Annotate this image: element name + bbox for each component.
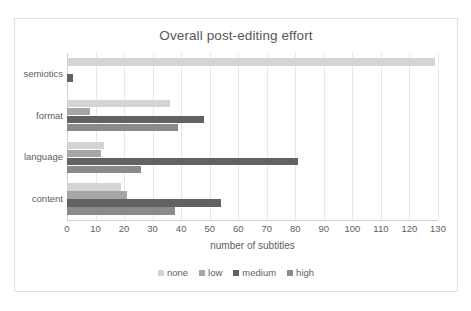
bar-language-high[interactable] (67, 166, 141, 173)
x-tick-label-90: 90 (319, 223, 330, 234)
bar-content-none[interactable] (67, 183, 121, 190)
x-tick-label-50: 50 (204, 223, 215, 234)
legend-label-low: low (208, 267, 222, 278)
bar-semiotics-medium[interactable] (67, 74, 73, 81)
legend-item-low[interactable]: low (199, 267, 222, 278)
category-label-language: language (24, 151, 63, 162)
bar-row (67, 142, 438, 149)
x-tick-label-0: 0 (64, 223, 69, 234)
chart-legend: nonelowmediumhigh (15, 267, 457, 278)
legend-item-medium[interactable]: medium (233, 267, 276, 278)
bar-content-medium[interactable] (67, 199, 221, 206)
x-tick-label-120: 120 (402, 223, 418, 234)
bar-group-content (67, 178, 438, 220)
x-tick-label-130: 130 (430, 223, 446, 234)
bar-row (67, 158, 438, 165)
category-label-semiotics: semiotics (23, 68, 63, 79)
bar-row (67, 183, 438, 190)
chart-title: Overall post-editing effort (15, 28, 457, 43)
value-axis-title: number of subtitles (67, 240, 438, 251)
bar-group-format (67, 95, 438, 137)
legend-label-medium: medium (242, 267, 276, 278)
legend-label-none: none (167, 267, 188, 278)
gridline-130 (438, 53, 439, 220)
bar-content-low[interactable] (67, 191, 127, 198)
bar-row (67, 199, 438, 206)
bar-row (67, 74, 438, 81)
bar-row (67, 108, 438, 115)
bar-row (67, 66, 438, 73)
bar-format-low[interactable] (67, 108, 90, 115)
x-tick-label-60: 60 (233, 223, 244, 234)
x-tick-label-100: 100 (344, 223, 360, 234)
legend-swatch-none (158, 270, 164, 276)
bar-language-none[interactable] (67, 142, 104, 149)
x-tick-label-20: 20 (119, 223, 130, 234)
chart-frame: Overall post-editing effort semioticsfor… (14, 18, 458, 292)
legend-label-high: high (296, 267, 314, 278)
x-tick-label-80: 80 (290, 223, 301, 234)
bar-format-none[interactable] (67, 100, 170, 107)
x-tick-label-40: 40 (176, 223, 187, 234)
category-label-format: format (36, 110, 63, 121)
bar-content-high[interactable] (67, 207, 175, 214)
legend-swatch-medium (233, 270, 239, 276)
bar-semiotics-none[interactable] (67, 58, 435, 65)
plot-area (67, 53, 438, 220)
legend-item-none[interactable]: none (158, 267, 188, 278)
x-tick-label-70: 70 (261, 223, 272, 234)
bar-row (67, 82, 438, 89)
value-axis-tick-labels: 0102030405060708090100110120130 (67, 223, 438, 237)
legend-swatch-high (287, 270, 293, 276)
category-axis-labels: semioticsformatlanguagecontent (15, 53, 63, 220)
bar-row (67, 207, 438, 214)
category-label-content: content (32, 193, 63, 204)
bar-row (67, 191, 438, 198)
legend-item-high[interactable]: high (287, 267, 314, 278)
bar-row (67, 116, 438, 123)
bar-format-high[interactable] (67, 124, 178, 131)
bar-group-semiotics (67, 53, 438, 95)
legend-swatch-low (199, 270, 205, 276)
bar-row (67, 100, 438, 107)
bar-row (67, 58, 438, 65)
bar-format-medium[interactable] (67, 116, 204, 123)
bar-language-medium[interactable] (67, 158, 298, 165)
bar-group-language (67, 137, 438, 179)
bar-language-low[interactable] (67, 150, 101, 157)
x-tick-label-110: 110 (373, 223, 388, 234)
x-tick-label-30: 30 (147, 223, 158, 234)
bar-row (67, 124, 438, 131)
value-axis-line (67, 220, 438, 221)
x-tick-label-10: 10 (90, 223, 101, 234)
bar-row (67, 150, 438, 157)
bar-row (67, 166, 438, 173)
